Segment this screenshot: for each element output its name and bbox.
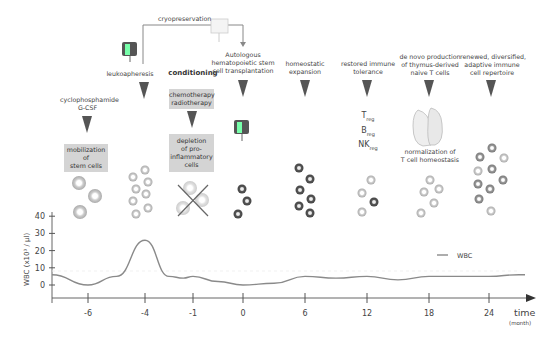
depletion-box: depletion of pro- inflammatory cells xyxy=(169,134,214,172)
y-tick-label: 10 xyxy=(35,264,45,273)
x-tick-label: 6 xyxy=(302,309,307,318)
normalization-label: normalization of T cell homeostasis xyxy=(398,148,462,164)
arrow-renewed-icon xyxy=(486,80,496,97)
denovo-line-2: of thymus-derived xyxy=(398,61,462,69)
nkreg: NKreg xyxy=(353,139,383,154)
x-tick-label: -4 xyxy=(141,309,149,318)
transplant-line-1: Autologous xyxy=(210,51,276,59)
tolerance-line-1: restored immune xyxy=(340,60,396,68)
normalization-line-2: T cell homeostasis xyxy=(398,156,462,164)
transplant-line-3: cell transplantation xyxy=(210,67,276,75)
drug-2: G-CSF xyxy=(60,104,115,112)
cell-group-transplant xyxy=(234,185,252,219)
arrowhead-icon xyxy=(240,42,246,47)
y-axis-label: WBC (x10³ / µl) xyxy=(23,232,31,286)
renewed-line-1: renewed, diversified, xyxy=(460,53,524,61)
leukapheresis-label: leukoapheresis xyxy=(105,70,155,78)
depletion-line-1: depletion xyxy=(169,137,214,145)
cell-group-leukapheresis xyxy=(129,166,153,219)
cell-group-homeostatic xyxy=(295,164,316,218)
arrow-leukapheresis-icon xyxy=(139,82,149,99)
arrow-chemo-icon xyxy=(187,111,197,128)
y-tick-label: 20 xyxy=(35,247,45,256)
depletion-line-2: of pro- xyxy=(169,145,214,153)
y-tick-label: 30 xyxy=(35,229,45,238)
x-tick-label: -6 xyxy=(84,309,92,318)
tolerance-line-2: tolerance xyxy=(340,68,396,76)
thymus-icon xyxy=(413,108,442,146)
mobilization-line-2: stem cells xyxy=(64,162,108,170)
arrow-homeostatic-icon xyxy=(300,80,310,97)
wbc-series-line xyxy=(52,240,525,285)
cryobag-icon xyxy=(211,19,228,42)
chemo-line-2: radiotherapy xyxy=(169,99,214,107)
regulatory-cells-label: Treg Breg NKreg xyxy=(353,110,383,154)
mobilization-line-1: mobilization of xyxy=(64,146,108,162)
cryopreservation-arrow xyxy=(143,25,211,64)
arrow-mobilization-icon xyxy=(82,116,92,133)
x-axis-arrow-icon xyxy=(526,294,536,302)
blood-bag-icon xyxy=(122,42,137,62)
x-axis-label: time xyxy=(514,307,536,318)
x-tick-label: 12 xyxy=(362,309,372,318)
mobilization-drugs-label: cyclophosphamide G-CSF xyxy=(60,96,115,112)
transplant-line-2: hematopoietic stem xyxy=(210,59,276,67)
cell-group-mobilization xyxy=(72,176,102,219)
arrow-tolerance-icon xyxy=(362,80,372,97)
homeostatic-label: homeostatic expansion xyxy=(280,60,330,76)
arrow-transplant-icon xyxy=(238,80,248,97)
x-tick-label: 24 xyxy=(484,309,494,318)
cell-group-renewed xyxy=(474,144,509,216)
homeostatic-line-1: homeostatic xyxy=(280,60,330,68)
breg: Breg xyxy=(353,125,383,140)
cryopreservation-label: cryopreservation xyxy=(158,15,208,23)
denovo-line-3: naive T cells xyxy=(398,69,462,77)
legend-label-wbc: WBC xyxy=(457,252,473,260)
cryopreservation-arrow-right xyxy=(228,25,243,42)
homeostatic-line-2: expansion xyxy=(280,68,330,76)
x-tick-label: -1 xyxy=(189,309,197,318)
depletion-line-3: inflammatory xyxy=(169,153,214,161)
cell-group-normalization xyxy=(417,176,444,218)
renewed-label: renewed, diversified, adaptive immune ce… xyxy=(460,53,524,77)
normalization-line-1: normalization of xyxy=(398,148,462,156)
chemo-line-1: chemotherapy xyxy=(169,91,214,99)
mobilization-box: mobilization of stem cells xyxy=(64,144,108,172)
x-axis-unit: (month) xyxy=(509,320,531,326)
x-tick-label: 0 xyxy=(240,309,245,318)
denovo-line-1: de novo production xyxy=(398,53,462,61)
y-tick-label: 40 xyxy=(35,212,45,221)
tolerance-label: restored immune tolerance xyxy=(340,60,396,76)
x-tick-label: 18 xyxy=(424,309,434,318)
depletion-line-4: cells xyxy=(169,161,214,169)
denovo-label: de novo production of thymus-derived nai… xyxy=(398,53,462,77)
chemo-box: chemotherapy radiotherapy xyxy=(169,89,214,109)
y-tick-label: 0 xyxy=(40,281,45,290)
renewed-line-3: cell repertoire xyxy=(460,69,524,77)
arrow-denovo-icon xyxy=(424,80,434,97)
wbc-chart: 010203040 -6-4-106121824 WBC WBC (x10³ /… xyxy=(23,212,536,326)
cell-group-depleted xyxy=(176,181,209,216)
treg: Treg xyxy=(353,110,383,125)
drug-1: cyclophosphamide xyxy=(60,96,115,104)
renewed-line-2: adaptive immune xyxy=(460,61,524,69)
transplant-label: Autologous hematopoietic stem cell trans… xyxy=(210,51,276,75)
cell-group-tolerance xyxy=(358,176,379,217)
blood-bag-icon-2 xyxy=(234,120,249,141)
